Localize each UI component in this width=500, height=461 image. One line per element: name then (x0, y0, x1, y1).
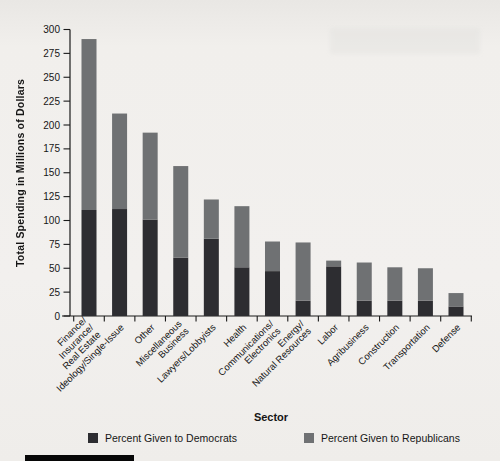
y-tick-label: 250 (43, 72, 60, 83)
x-axis-title: Sector (70, 411, 472, 423)
bar-segment-democrats (234, 267, 249, 316)
y-tick-label: 225 (43, 96, 60, 107)
y-tick-label: 125 (43, 191, 60, 202)
bar-segment-republicans (234, 206, 249, 267)
chart-legend: Percent Given to Democrats Percent Given… (0, 432, 500, 446)
y-axis-title: Total Spending in Millions of Dollars (14, 29, 26, 317)
cropped-caption-bar (25, 455, 134, 461)
bar-segment-republicans (296, 242, 311, 300)
y-tick-label: 300 (43, 24, 60, 35)
bar-segment-republicans (82, 39, 97, 210)
bar-segment-democrats (112, 209, 127, 316)
republicans-swatch-icon (304, 433, 314, 443)
y-tick-label: 50 (49, 263, 61, 274)
legend-item-democrats: Percent Given to Democrats (88, 432, 237, 444)
bar-segment-republicans (357, 263, 372, 301)
y-tick-label: 175 (43, 143, 60, 154)
bar-segment-republicans (204, 199, 219, 238)
y-tick-label: 100 (43, 215, 60, 226)
legend-label-republicans: Percent Given to Republicans (321, 432, 460, 444)
y-tick-label: 275 (43, 48, 60, 59)
y-tick-label: 75 (49, 239, 61, 250)
bar-segment-democrats (357, 301, 372, 316)
bar-segment-democrats (387, 301, 402, 316)
bar-segment-republicans (418, 268, 433, 300)
bar-segment-democrats (82, 210, 97, 316)
bar-segment-republicans (143, 133, 158, 220)
legend-label-democrats: Percent Given to Democrats (105, 432, 237, 444)
bar-segment-republicans (173, 166, 188, 258)
scanned-page: 0255075100125150175200225250275300Financ… (0, 0, 500, 461)
x-category-label: Finance/Insurance/Real Estate (46, 314, 103, 371)
bar-chart: 0255075100125150175200225250275300Financ… (0, 0, 500, 430)
bar-segment-democrats (265, 271, 280, 316)
x-category-label: Communications/Electronics (216, 318, 283, 385)
bar-segment-democrats (143, 220, 158, 316)
bar-segment-republicans (265, 242, 280, 272)
legend-item-republicans: Percent Given to Republicans (304, 432, 460, 444)
bar-segment-democrats (173, 258, 188, 316)
bar-segment-democrats (448, 306, 463, 316)
y-tick-label: 150 (43, 167, 60, 178)
bar-segment-republicans (112, 114, 127, 210)
y-tick-label: 200 (43, 120, 60, 131)
x-category-label: Defense (430, 322, 463, 355)
y-tick-label: 25 (49, 287, 61, 298)
democrats-swatch-icon (88, 433, 98, 443)
bar-segment-democrats (326, 266, 341, 316)
bar-segment-republicans (387, 267, 402, 300)
bar-segment-democrats (296, 301, 311, 316)
x-category-label: Labor (315, 322, 340, 347)
bar-segment-republicans (326, 261, 341, 267)
bar-segment-democrats (418, 301, 433, 316)
bar-segment-republicans (448, 293, 463, 306)
y-tick-label: 0 (54, 311, 60, 322)
bar-segment-democrats (204, 239, 219, 316)
x-category-label: MiscellaneousBusiness (133, 318, 191, 376)
